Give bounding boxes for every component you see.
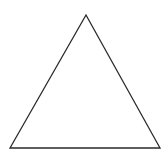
diagram-canvas [0,0,167,163]
triangle-shape [10,15,160,148]
